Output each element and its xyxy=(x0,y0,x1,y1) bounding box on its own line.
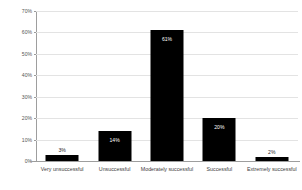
x-axis-tick-label: Extremely successful xyxy=(247,165,297,173)
y-axis-tick-label: 40% xyxy=(12,72,32,78)
y-axis-tick-label: 60% xyxy=(12,29,32,35)
x-axis-tick-label: Very unsuccessful xyxy=(41,165,84,173)
bar[interactable] xyxy=(98,131,131,161)
bar-value-label: 3% xyxy=(59,147,66,153)
bar[interactable] xyxy=(255,157,288,161)
bar-group: 20% xyxy=(193,11,245,161)
y-axis-tick-labels: 0%10%20%30%40%50%60%70% xyxy=(12,0,32,190)
y-axis-tick-label: 10% xyxy=(12,137,32,143)
bar[interactable] xyxy=(46,155,79,161)
bar-value-label: 14% xyxy=(109,137,119,143)
bar-group: 61% xyxy=(141,11,193,161)
x-axis-tick-label: Moderately successful xyxy=(141,165,193,173)
bar-value-label: 61% xyxy=(162,36,172,42)
y-axis-tick-mark xyxy=(34,161,37,162)
gridline xyxy=(36,161,298,162)
bar[interactable] xyxy=(150,30,183,161)
x-axis-tick-label: Successful xyxy=(207,165,233,173)
y-axis-tick-label: 20% xyxy=(12,115,32,121)
x-axis-tick-labels: Very unsuccessfulUnsuccessfulModerately … xyxy=(36,165,298,177)
plot-area: 3%14%61%20%2% xyxy=(36,11,298,161)
bar-group: 2% xyxy=(246,11,298,161)
bar-value-label: 20% xyxy=(214,124,224,130)
x-axis-tick-label: Unsuccessful xyxy=(99,165,131,173)
bar-group: 14% xyxy=(88,11,140,161)
bar-value-label: 2% xyxy=(268,149,275,155)
bar-group: 3% xyxy=(36,11,88,161)
y-axis-tick-label: 30% xyxy=(12,94,32,100)
y-axis-tick-label: 0% xyxy=(12,158,32,164)
y-axis-tick-label: 70% xyxy=(12,8,32,14)
y-axis-tick-label: 50% xyxy=(12,51,32,57)
bar-chart: Percent of respondents 0%10%20%30%40%50%… xyxy=(0,0,302,190)
